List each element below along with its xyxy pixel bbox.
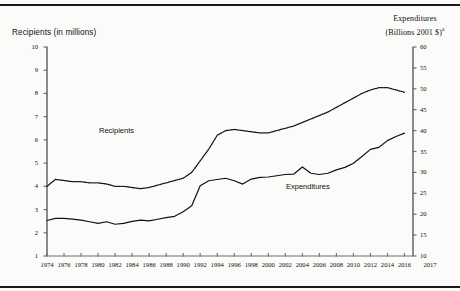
right-axis-tick-label: 55: [420, 64, 436, 71]
x-axis-end-label: 2017: [417, 261, 443, 268]
left-axis-tick-label: 10: [22, 43, 38, 50]
series-annotation-expenditures: Expenditures: [286, 182, 330, 191]
left-axis-tick-label: 5: [22, 159, 38, 166]
right-axis-tick-label: 35: [420, 148, 436, 155]
right-axis-tick-label: 30: [420, 168, 436, 175]
series-line-recipients: [47, 88, 404, 189]
left-axis-tick-label: 6: [22, 136, 38, 143]
left-axis-tick-label: 2: [22, 229, 38, 236]
right-axis-tick-label: 15: [420, 231, 436, 238]
left-axis-tick-label: 4: [22, 182, 38, 189]
left-axis-tick-label: 3: [22, 206, 38, 213]
left-axis-tick-label: 1: [22, 252, 38, 259]
right-axis-tick-label: 20: [420, 210, 436, 217]
left-axis-tick-label: 9: [22, 66, 38, 73]
ticks-group: [44, 47, 417, 257]
right-axis-tick-label: 25: [420, 189, 436, 196]
right-axis-tick-label: 45: [420, 106, 436, 113]
right-axis-tick-label: 40: [420, 127, 436, 134]
right-axis-tick-label: 50: [420, 85, 436, 92]
series-line-expenditures: [47, 133, 404, 224]
right-axis-tick-label: 60: [420, 43, 436, 50]
series-annotation-recipients: Recipients: [99, 126, 134, 135]
right-axis-tick-label: 10: [420, 252, 436, 259]
chart-canvas: [0, 0, 460, 291]
x-axis-tick-label: 2016: [391, 261, 417, 268]
left-axis-tick-label: 7: [22, 113, 38, 120]
figure-page: Recipients (in millions) Expenditures (B…: [0, 0, 460, 291]
axes-group: [47, 47, 413, 256]
left-axis-tick-label: 8: [22, 89, 38, 96]
series-group: [47, 88, 404, 225]
